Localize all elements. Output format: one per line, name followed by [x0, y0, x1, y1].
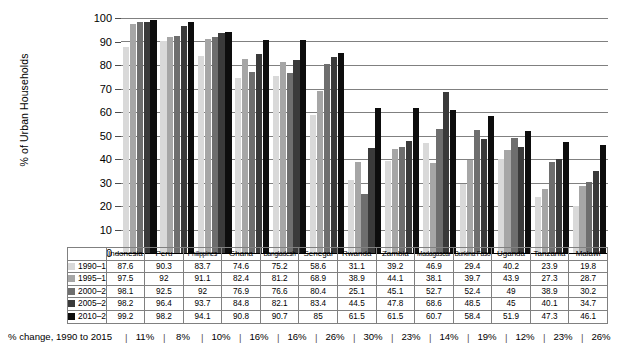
table-cell: 45.1	[376, 285, 415, 298]
bar	[212, 37, 218, 253]
bar	[542, 189, 548, 253]
percent-change-value: |16%	[278, 331, 316, 342]
table-column-header: Ghana	[222, 248, 261, 261]
table-cell: 25.1	[337, 285, 376, 298]
bar	[338, 53, 344, 253]
table-cell: 38.9	[337, 273, 376, 286]
table-cell: 98.1	[106, 285, 145, 298]
table-cell: 51.9	[492, 310, 531, 323]
bar	[293, 60, 299, 253]
bar	[348, 180, 354, 253]
table-cell: 92	[183, 285, 222, 298]
legend-swatch-icon	[68, 288, 75, 295]
bar	[481, 139, 487, 253]
table-cell: 40.1	[530, 298, 569, 311]
percent-change-text: 19%	[477, 331, 496, 342]
table-cell: 44.5	[337, 298, 376, 311]
table-cell: 49	[492, 285, 531, 298]
table-cell: 30.2	[569, 285, 608, 298]
percent-change-text: 8%	[176, 331, 190, 342]
y-tick-label: 30	[86, 177, 112, 188]
bar	[361, 194, 367, 253]
table-cell: 46.9	[415, 260, 454, 273]
table-cell: 75.2	[260, 260, 299, 273]
bar	[504, 150, 510, 253]
separator: |	[201, 332, 204, 343]
legend-item-label: 1990–1994	[78, 261, 106, 271]
table-column-header: Peru	[145, 248, 184, 261]
bar	[385, 161, 391, 253]
table-cell: 38.1	[415, 273, 454, 286]
table-cell: 76.6	[260, 285, 299, 298]
bar-group	[121, 18, 158, 253]
separator: |	[353, 332, 356, 343]
table-cell: 46.1	[569, 310, 608, 323]
bar	[535, 197, 541, 253]
separator: |	[315, 332, 318, 343]
bar	[300, 40, 306, 253]
bar	[167, 37, 173, 253]
bar-group	[308, 18, 345, 253]
table-cell: 39.7	[453, 273, 492, 286]
bar	[511, 138, 517, 253]
percent-change-value: |10%	[202, 331, 240, 342]
percent-change-text: 23%	[401, 331, 420, 342]
table-cell: 58.4	[453, 310, 492, 323]
chart-page: % of Urban Households 100908070605040302…	[0, 0, 626, 358]
bar	[579, 186, 585, 253]
bar	[375, 108, 381, 253]
table-cell: 81.2	[260, 273, 299, 286]
y-tick-label: 10	[86, 224, 112, 235]
table-cell: 97.5	[106, 273, 145, 286]
separator: |	[125, 332, 128, 343]
table-column-header: Rwanda	[337, 248, 376, 261]
bar	[586, 182, 592, 253]
bar	[150, 20, 156, 253]
table-cell: 48.5	[453, 298, 492, 311]
bar	[181, 26, 187, 253]
table-cell: 47.3	[530, 310, 569, 323]
table-cell: 45	[492, 298, 531, 311]
legend-swatch-icon	[68, 313, 75, 320]
percent-change-text: 10%	[211, 331, 230, 342]
bar-group	[571, 18, 608, 253]
table-cell: 96.4	[145, 298, 184, 311]
bar	[355, 162, 361, 253]
legend-item-label: 2005–2009	[78, 298, 106, 308]
separator: |	[505, 332, 508, 343]
percent-change-text: 14%	[439, 331, 458, 342]
plot-area	[121, 18, 608, 253]
bar	[225, 32, 231, 253]
table-cell: 68.9	[299, 273, 338, 286]
bar-group	[233, 18, 270, 253]
table-cell: 82.1	[260, 298, 299, 311]
table-cell: 84.8	[222, 298, 261, 311]
table-cell: 52.7	[415, 285, 454, 298]
bar	[218, 33, 224, 253]
bar	[556, 159, 562, 253]
table-cell: 80.4	[299, 285, 338, 298]
table-cell: 47.8	[376, 298, 415, 311]
table-cell: 99.2	[106, 310, 145, 323]
table-corner-cell	[68, 248, 107, 261]
percent-change-label: % change, 1990 to 2015	[8, 331, 126, 342]
bar-groups	[121, 18, 608, 253]
table-column-header: Burkina Faso	[453, 248, 492, 261]
bar-group	[383, 18, 420, 253]
bar	[123, 47, 129, 253]
legend-item-label: 2000–2004	[78, 286, 106, 296]
bar	[160, 41, 166, 253]
percent-change-value: |23%	[544, 331, 582, 342]
table-body: 1990–199487.690.383.774.675.258.631.139.…	[68, 260, 608, 323]
bar	[467, 160, 473, 253]
legend-swatch-icon	[68, 300, 75, 307]
y-tick-label: 90	[86, 36, 112, 47]
percent-change-value: |26%	[582, 331, 620, 342]
table-cell: 98.2	[106, 298, 145, 311]
table-cell: 91.1	[183, 273, 222, 286]
separator: |	[277, 332, 280, 343]
bar	[137, 22, 143, 253]
bar	[263, 40, 269, 253]
table-column-header: Senegal	[299, 248, 338, 261]
percent-change-value: |14%	[430, 331, 468, 342]
